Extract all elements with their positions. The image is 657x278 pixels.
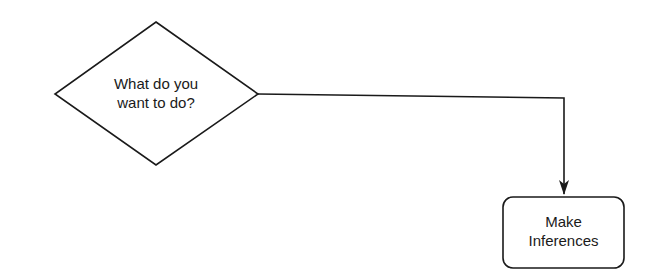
process-label-line-2: Inferences	[503, 231, 624, 250]
decision-label-line-2: want to do?	[86, 93, 226, 112]
process-label-line-1: Make	[503, 212, 624, 231]
process-label: Make Inferences	[503, 212, 624, 250]
connector-arrow	[258, 94, 564, 194]
decision-label-line-1: What do you	[86, 74, 226, 93]
decision-label: What do you want to do?	[86, 74, 226, 112]
flowchart-canvas: What do you want to do? Make Inferences	[0, 0, 657, 278]
